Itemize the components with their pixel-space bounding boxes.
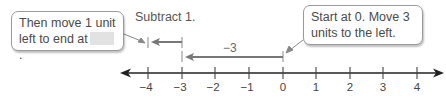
number-line-axis <box>120 69 444 78</box>
callout-left-line1: Then move 1 unit <box>19 15 116 31</box>
tick-label: −3 <box>173 81 186 93</box>
subtract-1-label: Subtract 1. <box>135 10 195 24</box>
answer-blank <box>90 32 114 45</box>
tick-label: 2 <box>347 81 353 93</box>
tick-label: −4 <box>139 81 152 93</box>
callout-right-line2: units to the left. <box>311 25 415 41</box>
subtract-1-arrow <box>148 37 182 48</box>
callout-left-period: . <box>19 48 22 62</box>
tick-label: 3 <box>380 81 386 93</box>
tick-label: 1 <box>313 81 319 93</box>
callout-left-line2: left to end at. <box>19 31 116 63</box>
tick-label: −1 <box>240 81 253 93</box>
tick-label: 4 <box>414 81 420 93</box>
callout-right-line1: Start at 0. Move 3 <box>311 9 415 25</box>
callout-start-position: Start at 0. Move 3 units to the left. <box>303 5 423 45</box>
tick-label: 0 <box>280 81 286 93</box>
tick-label: −2 <box>206 81 219 93</box>
callout-pointers <box>124 34 303 53</box>
callout-end-position: Then move 1 unit left to end at. <box>11 11 124 51</box>
minus-3-label: −3 <box>223 41 237 55</box>
callout-left-text: left to end at <box>19 32 88 46</box>
